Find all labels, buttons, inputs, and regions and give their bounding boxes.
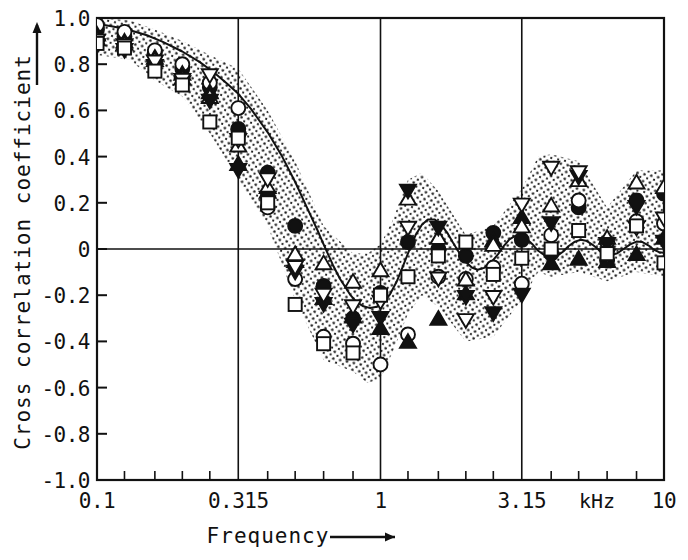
marker-open-square [176,78,189,91]
y-tick-label: 0 [78,238,90,262]
x-tick-label: 3.15 [497,489,546,513]
marker-open-square [289,298,302,311]
y-tick-label: 0.4 [54,146,90,170]
x-tick-label: 1 [374,489,386,513]
marker-open-square [601,247,614,260]
marker-open-circle [572,193,586,207]
marker-open-square [432,249,445,262]
marker-open-square [545,242,558,255]
x-axis-unit-label: kHz [579,489,615,513]
x-tick-label: 0.315 [208,489,269,513]
marker-open-square [515,252,528,265]
marker-open-square [487,268,500,281]
y-tick-label: -0.6 [41,377,90,401]
marker-open-square [317,337,330,350]
marker-open-square [459,236,472,249]
y-tick-label: 0.6 [54,99,90,123]
marker-open-square [572,224,585,237]
marker-open-square [148,65,161,78]
marker-open-square [401,270,414,283]
y-tick-label: 1.0 [54,7,90,31]
marker-open-circle [374,358,388,372]
chart-figure: 0.10.31513.1510 1.00.80.60.40.20-0.2-0.4… [0,0,688,560]
y-tick-label: 0.2 [54,192,90,216]
y-tick-label: -0.4 [41,330,90,354]
marker-open-square [118,41,131,54]
cross-correlation-scatter-plot: 0.10.31513.1510 1.00.80.60.40.20-0.2-0.4… [0,0,688,560]
marker-filled-circle [288,219,302,233]
y-axis-title: Cross correlation coefficient [11,54,35,450]
marker-open-square [232,132,245,145]
x-tick-label: 10 [652,489,676,513]
marker-open-circle [231,101,245,115]
y-tick-label: 0.8 [54,53,90,77]
y-tick-label: -1.0 [41,469,90,493]
marker-open-square [261,196,274,209]
y-tick-label: -0.8 [41,423,90,447]
marker-filled-circle [459,249,473,263]
marker-open-square [203,115,216,128]
marker-open-square [630,219,643,232]
y-tick-label: -0.2 [41,284,90,308]
x-axis-title: Frequency [207,524,330,548]
marker-open-square [374,289,387,302]
marker-open-square [346,346,359,359]
marker-filled-circle [515,233,529,247]
